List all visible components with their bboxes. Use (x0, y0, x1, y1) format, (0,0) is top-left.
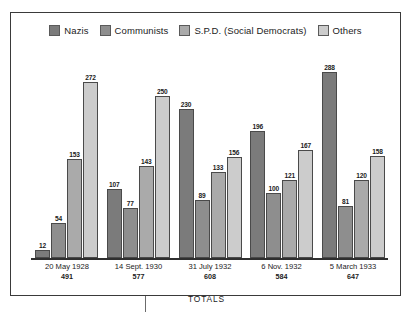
bar-communists-3[interactable]: 89 (195, 55, 210, 258)
bar-groups: 1254153272107771432502308913315619610012… (35, 55, 385, 258)
bar-others-5[interactable]: 158 (370, 55, 385, 258)
bar-value-label: 272 (85, 74, 96, 81)
bar-value-label: 121 (284, 172, 295, 179)
x-tick-date: 31 July 1932 (178, 262, 242, 272)
bar-rect (139, 166, 154, 258)
x-tick-total: 608 (178, 272, 242, 282)
bar-value-label: 143 (141, 158, 152, 165)
bar-communists-4[interactable]: 100 (266, 55, 281, 258)
bar-value-label: 167 (300, 142, 311, 149)
legend-swatch-nazis (49, 25, 60, 36)
bar-value-label: 230 (181, 101, 192, 108)
legend-label-communists: Communists (115, 25, 169, 36)
legend-item-nazis[interactable]: Nazis (49, 25, 88, 36)
x-tick-5: 5 March 1933647 (321, 262, 385, 282)
bar-value-label: 77 (127, 200, 134, 207)
bar-rect (179, 109, 194, 258)
bar-value-label: 156 (229, 149, 240, 156)
bar-value-label: 107 (109, 181, 120, 188)
legend-item-communists[interactable]: Communists (100, 25, 169, 36)
x-axis-labels: 20 May 192849114 Sept. 193057731 July 19… (35, 262, 385, 282)
bar-others-3[interactable]: 156 (227, 55, 242, 258)
bar-rect (370, 156, 385, 258)
bar-nazis-2[interactable]: 107 (107, 55, 122, 258)
bar-group-4: 196100121167 (250, 55, 313, 258)
bar-nazis-4[interactable]: 196 (250, 55, 265, 258)
bar-value-label: 100 (268, 185, 279, 192)
legend-swatch-others (318, 25, 329, 36)
bar-spd-4[interactable]: 121 (282, 55, 297, 258)
x-tick-2: 14 Sept. 1930577 (107, 262, 171, 282)
bar-rect (35, 250, 50, 258)
chart-page: Nazis Communists S.P.D. (Social Democrat… (0, 0, 415, 312)
bar-rect (227, 157, 242, 258)
x-tick-date: 20 May 1928 (35, 262, 99, 272)
chart-frame: Nazis Communists S.P.D. (Social Democrat… (10, 12, 401, 296)
bar-others-2[interactable]: 250 (155, 55, 170, 258)
bar-rect (354, 180, 369, 258)
bar-rect (211, 172, 226, 258)
x-tick-total: 577 (107, 272, 171, 282)
legend-swatch-spd (179, 25, 190, 36)
bar-group-2: 10777143250 (107, 55, 170, 258)
legend-swatch-communists (100, 25, 111, 36)
legend-label-nazis: Nazis (64, 25, 88, 36)
bar-spd-2[interactable]: 143 (139, 55, 154, 258)
bar-communists-2[interactable]: 77 (123, 55, 138, 258)
frame-drop-tick (145, 296, 146, 312)
bar-rect (282, 180, 297, 258)
bar-value-label: 288 (324, 64, 335, 71)
bar-rect (83, 82, 98, 258)
legend-item-others[interactable]: Others (318, 25, 362, 36)
x-tick-date: 14 Sept. 1930 (107, 262, 171, 272)
bar-value-label: 89 (198, 192, 205, 199)
axis-baseline (31, 258, 388, 260)
bar-value-label: 158 (372, 148, 383, 155)
bar-value-label: 133 (213, 164, 224, 171)
x-tick-1: 20 May 1928491 (35, 262, 99, 282)
x-tick-total: 647 (321, 272, 385, 282)
bar-rect (155, 96, 170, 258)
bar-rect (338, 206, 353, 258)
bar-communists-5[interactable]: 81 (338, 55, 353, 258)
bar-nazis-1[interactable]: 12 (35, 55, 50, 258)
x-tick-4: 6 Nov. 1932584 (250, 262, 314, 282)
bar-value-label: 120 (356, 172, 367, 179)
bar-rect (250, 131, 265, 258)
bar-rect (322, 72, 337, 258)
bar-others-1[interactable]: 272 (83, 55, 98, 258)
bar-value-label: 196 (252, 123, 263, 130)
bar-rect (51, 223, 66, 258)
chart-legend: Nazis Communists S.P.D. (Social Democrat… (11, 25, 400, 36)
bar-group-5: 28881120158 (322, 55, 385, 258)
bar-rect (123, 208, 138, 258)
bar-value-label: 250 (157, 88, 168, 95)
bar-rect (67, 159, 82, 258)
bar-value-label: 153 (69, 151, 80, 158)
bar-others-4[interactable]: 167 (298, 55, 313, 258)
bar-nazis-3[interactable]: 230 (179, 55, 194, 258)
legend-label-others: Others (333, 25, 362, 36)
bar-rect (298, 150, 313, 258)
bar-value-label: 12 (39, 242, 46, 249)
bar-rect (107, 189, 122, 258)
legend-label-spd: S.P.D. (Social Democrats) (194, 25, 306, 36)
x-tick-3: 31 July 1932608 (178, 262, 242, 282)
x-tick-total: 491 (35, 272, 99, 282)
bar-spd-5[interactable]: 120 (354, 55, 369, 258)
bar-group-1: 1254153272 (35, 55, 98, 258)
x-tick-date: 6 Nov. 1932 (250, 262, 314, 272)
bar-communists-1[interactable]: 54 (51, 55, 66, 258)
bar-value-label: 54 (55, 215, 62, 222)
legend-item-spd[interactable]: S.P.D. (Social Democrats) (179, 25, 306, 36)
x-tick-total: 584 (250, 272, 314, 282)
x-tick-date: 5 March 1933 (321, 262, 385, 272)
bar-rect (195, 200, 210, 258)
totals-caption: TOTALS (11, 294, 402, 304)
bar-value-label: 81 (342, 198, 349, 205)
bar-group-3: 23089133156 (179, 55, 242, 258)
bar-nazis-5[interactable]: 288 (322, 55, 337, 258)
bar-spd-1[interactable]: 153 (67, 55, 82, 258)
bar-rect (266, 193, 281, 258)
bar-spd-3[interactable]: 133 (211, 55, 226, 258)
